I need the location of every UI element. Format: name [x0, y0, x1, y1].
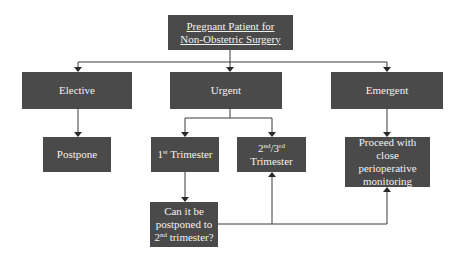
second-third-line1: 2nd/3rd — [250, 142, 292, 155]
elective-node: Elective — [22, 72, 132, 109]
second-third-trimester-node: 2nd/3rd Trimester — [237, 137, 306, 172]
first-trimester-node: 1st Trimester — [151, 137, 219, 172]
emergent-node: Emergent — [331, 72, 443, 109]
proceed-node: Proceed with close perioperative monitor… — [345, 137, 430, 187]
question-node: Can it be postponed to 2nd trimester? — [150, 202, 218, 247]
root-node: Pregnant Patient for Non-Obstetric Surge… — [168, 15, 293, 50]
elective-label: Elective — [59, 84, 95, 97]
postpone-label: Postpone — [57, 148, 97, 161]
urgent-node: Urgent — [170, 72, 282, 109]
root-line2: Non-Obstetric Surgery — [180, 33, 280, 46]
proceed-line3: monitoring — [347, 175, 428, 188]
question-line2: postponed to — [154, 218, 213, 231]
root-line1: Pregnant Patient for — [180, 20, 280, 33]
question-line1: Can it be — [154, 205, 213, 218]
first-trimester-label: 1st Trimester — [157, 148, 212, 161]
question-line3: 2nd trimester? — [154, 231, 213, 244]
emergent-label: Emergent — [366, 84, 409, 97]
postpone-node: Postpone — [43, 137, 111, 172]
second-third-line2: Trimester — [250, 155, 292, 168]
proceed-line1: Proceed with close — [347, 136, 428, 162]
arrow-up-to-second-trimester — [268, 172, 276, 177]
proceed-line2: perioperative — [347, 162, 428, 175]
urgent-label: Urgent — [211, 84, 241, 97]
